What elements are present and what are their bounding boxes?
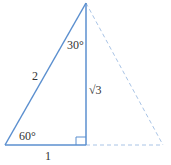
dashed-mirror-side (86, 3, 163, 145)
top-angle-label: 30° (67, 38, 84, 52)
hypotenuse-label: 2 (32, 69, 38, 83)
triangle-diagram: 30° 2 √3 60° 1 (0, 0, 171, 165)
bottom-angle-label: 60° (19, 129, 36, 143)
height-label: √3 (89, 83, 102, 97)
hypotenuse-line (5, 3, 86, 145)
base-label: 1 (45, 149, 51, 163)
right-angle-marker (76, 137, 86, 145)
